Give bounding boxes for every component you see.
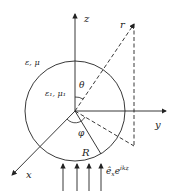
x-axis xyxy=(12,111,75,175)
y-axis-label: y xyxy=(154,119,161,130)
incident-wave-label: êxeikz xyxy=(106,164,130,177)
radius-label: R xyxy=(81,147,90,158)
diagram-svg: z r ε, μ ε₁, μ₁ θ y φ R x êxeikz xyxy=(0,0,174,191)
inner-medium-label: ε₁, μ₁ xyxy=(45,89,66,98)
phi-arc xyxy=(67,117,85,123)
scattering-sphere-diagram: z r ε, μ ε₁, μ₁ θ y φ R x êxeikz xyxy=(0,0,174,191)
phi-label: φ xyxy=(78,128,85,138)
r-vector xyxy=(75,24,134,111)
outer-medium-label: ε, μ xyxy=(25,58,40,67)
theta-label: θ xyxy=(79,80,85,90)
theta-arc xyxy=(75,97,83,99)
z-axis-label: z xyxy=(83,13,90,24)
x-axis-label: x xyxy=(26,169,32,180)
r-label: r xyxy=(120,19,126,30)
